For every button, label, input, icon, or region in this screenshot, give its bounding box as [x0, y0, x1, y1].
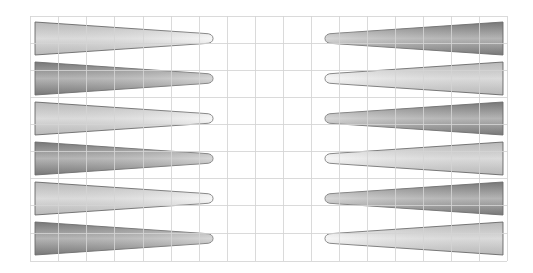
left-point-2-dark[interactable] [35, 62, 213, 95]
right-point-2-light[interactable] [325, 62, 503, 95]
left-point-1-light[interactable] [35, 22, 213, 55]
grid-layer [30, 16, 508, 262]
backgammon-board [0, 0, 533, 273]
point-shading [325, 182, 503, 215]
point-shading [35, 62, 213, 95]
point-shading [325, 22, 503, 55]
left-point-4-dark[interactable] [35, 142, 213, 175]
left-point-3-light[interactable] [35, 102, 213, 135]
point-shading [35, 102, 213, 135]
point-shading [35, 182, 213, 215]
point-shading [35, 22, 213, 55]
point-shading [35, 142, 213, 175]
board-canvas [0, 0, 533, 273]
left-point-6-dark[interactable] [35, 222, 213, 255]
point-shading [35, 222, 213, 255]
point-shading [325, 142, 503, 175]
right-point-5-dark[interactable] [325, 182, 503, 215]
right-point-4-light[interactable] [325, 142, 503, 175]
right-point-1-dark[interactable] [325, 22, 503, 55]
point-shading [325, 222, 503, 255]
points-layer [35, 22, 503, 255]
point-shading [325, 62, 503, 95]
left-point-5-light[interactable] [35, 182, 213, 215]
point-shading [325, 102, 503, 135]
right-point-6-light[interactable] [325, 222, 503, 255]
right-point-3-dark[interactable] [325, 102, 503, 135]
